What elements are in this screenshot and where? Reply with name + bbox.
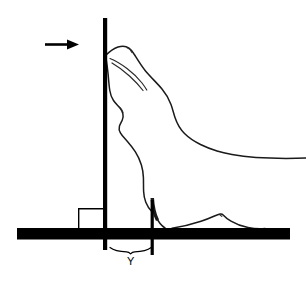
y-measurement-brace [110,248,151,254]
animal-chest-crease [120,107,124,112]
ground-platform-bar [17,228,290,240]
arrow-right-icon [45,40,79,50]
animal-chest-belly-outline [106,58,152,212]
diagram-svg: Y [0,0,306,281]
animal-flipper-notch [220,215,222,217]
y-measurement-label: Y [127,255,135,267]
figure-canvas: Y [0,0,306,281]
animal-brow-notch [127,48,132,53]
animal-back-outline [105,46,306,158]
animal-rear-flipper [172,214,265,229]
animal-jaw-line [112,63,143,91]
vertical-barrier-post [103,18,107,250]
rear-measurement-post [151,200,154,255]
